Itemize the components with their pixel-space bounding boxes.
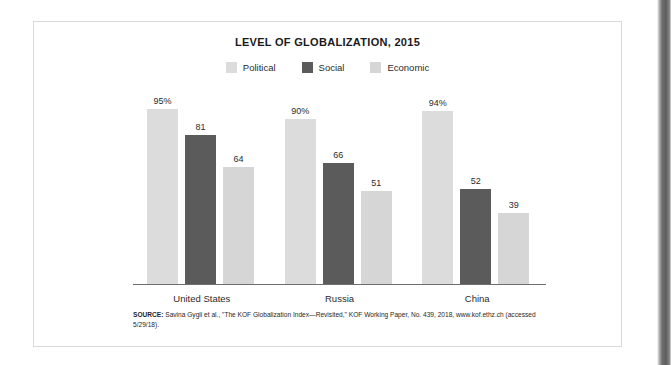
category-label: China [465, 293, 490, 304]
legend-item-political: Political [226, 62, 276, 73]
bar-set: 95%8164 [133, 82, 271, 285]
bar-item: 64 [223, 82, 254, 285]
bar-item: 51 [361, 82, 392, 285]
source-note: SOURCE: Savina Gygli et al., "The KOF Gl… [133, 310, 553, 330]
bar-value-label: 81 [195, 122, 205, 132]
bar-rect [185, 135, 216, 285]
bar-set: 94%5239 [408, 82, 546, 285]
chart-title: LEVEL OF GLOBALIZATION, 2015 [34, 36, 621, 48]
bar-value-label: 90% [291, 106, 309, 116]
page-edge-gutter [657, 0, 671, 365]
legend-item-economic: Economic [370, 62, 429, 73]
legend-label-economic: Economic [387, 62, 429, 73]
figure-container: LEVEL OF GLOBALIZATION, 2015 Political S… [33, 21, 622, 347]
category-label: United States [173, 293, 230, 304]
bar-value-label: 95% [153, 96, 171, 106]
legend-item-social: Social [302, 62, 345, 73]
bar-item: 52 [460, 82, 491, 285]
bar-rect [460, 189, 491, 285]
bar-value-label: 39 [509, 200, 519, 210]
bar-rect [422, 111, 453, 285]
chart-legend: Political Social Economic [34, 62, 621, 73]
bar-item: 94% [422, 82, 453, 285]
bar-rect [323, 163, 354, 285]
bar-item: 66 [323, 82, 354, 285]
legend-label-political: Political [243, 62, 276, 73]
legend-swatch-political [226, 62, 237, 73]
figure-screenshot: LEVEL OF GLOBALIZATION, 2015 Political S… [0, 0, 671, 365]
bar-value-label: 51 [371, 178, 381, 188]
source-label: SOURCE: [133, 311, 163, 318]
bar-rect [147, 109, 178, 285]
bar-item: 95% [147, 82, 178, 285]
bar-groups: 95%816490%665194%5239 [133, 82, 546, 285]
bar-item: 81 [185, 82, 216, 285]
bar-value-label: 94% [429, 98, 447, 108]
category-label: Russia [325, 293, 354, 304]
plot-area: 95%816490%665194%5239 [133, 82, 546, 285]
category-label-cell: United States [133, 288, 271, 306]
bar-value-label: 64 [233, 154, 243, 164]
bar-rect [223, 167, 254, 285]
category-label-cell: China [408, 288, 546, 306]
bar-group: 95%8164 [133, 82, 271, 285]
bar-item: 90% [285, 82, 316, 285]
bar-item: 39 [498, 82, 529, 285]
bar-set: 90%6651 [271, 82, 409, 285]
bar-rect [361, 191, 392, 285]
source-body: Savina Gygli et al., "The KOF Globalizat… [133, 311, 536, 328]
legend-swatch-social [302, 62, 313, 73]
category-label-cell: Russia [271, 288, 409, 306]
legend-swatch-economic [370, 62, 381, 73]
bar-value-label: 66 [333, 150, 343, 160]
bar-group: 94%5239 [408, 82, 546, 285]
bar-rect [285, 119, 316, 286]
bar-rect [498, 213, 529, 285]
bar-group: 90%6651 [271, 82, 409, 285]
x-axis-line [133, 284, 546, 285]
category-axis-labels: United StatesRussiaChina [133, 288, 546, 306]
legend-label-social: Social [319, 62, 345, 73]
bar-value-label: 52 [471, 176, 481, 186]
